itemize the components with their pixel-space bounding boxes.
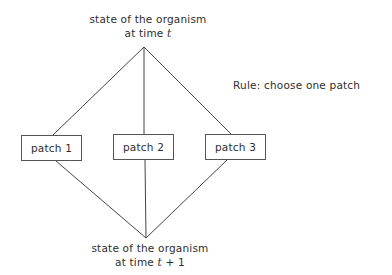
top-node-time-prefix: at time (125, 27, 168, 39)
edge-patch-3-to-bottom (146, 160, 227, 238)
bottom-node-line1: state of the organism (66, 241, 234, 255)
edge-top-to-patch-3 (144, 47, 231, 134)
bottom-node-time-prefix: at time (115, 256, 158, 268)
bottom-node-time-suffix: + 1 (162, 256, 185, 268)
top-node-label: state of the organism at time t (64, 12, 232, 40)
top-node-time-variable: t (167, 27, 171, 39)
patch-2-label: patch 2 (123, 141, 164, 153)
top-node-line1: state of the organism (64, 12, 232, 26)
patch-3-label: patch 3 (215, 141, 256, 153)
patch-2-box: patch 2 (113, 134, 174, 160)
patch-choice-diagram: state of the organism at time t Rule: ch… (0, 0, 392, 275)
top-node-line2: at time t (64, 26, 232, 40)
rule-label: Rule: choose one patch (233, 78, 360, 92)
edge-top-to-patch-1 (53, 47, 144, 135)
edge-patch-2-to-bottom (145, 160, 146, 238)
bottom-node-label: state of the organism at time t + 1 (66, 241, 234, 269)
bottom-node-line2: at time t + 1 (66, 255, 234, 269)
patch-1-box: patch 1 (21, 135, 82, 161)
patch-1-label: patch 1 (31, 142, 72, 154)
edge-patch-1-to-bottom (56, 161, 146, 238)
patch-3-box: patch 3 (205, 134, 266, 160)
